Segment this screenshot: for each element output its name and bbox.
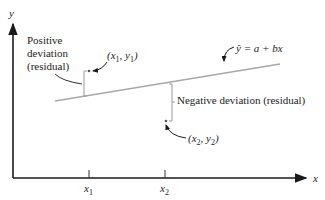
positive-residual-bracket — [84, 71, 87, 96]
positive-deviation-label-2: deviation — [27, 47, 68, 59]
positive-deviation-label-1: Positive — [27, 34, 63, 46]
positive-deviation-leader — [55, 74, 82, 84]
negative-residual-bracket — [169, 84, 172, 121]
point-2 — [165, 84, 175, 122]
point-1-label: (x1, y1) — [107, 49, 138, 64]
point-2-label: (x2, y2) — [188, 132, 219, 147]
y-axis: y — [8, 7, 14, 178]
regression-equation: ŷ = a + bx — [235, 42, 283, 54]
x2-tick: x2 — [159, 170, 169, 197]
positive-deviation-label-3: (residual) — [27, 60, 69, 73]
negative-deviation-label: Negative deviation (residual) — [177, 94, 306, 107]
x2-tick-label: x2 — [159, 182, 169, 197]
equation-pointer-arrow — [224, 47, 234, 61]
x-axis-label: x — [312, 172, 318, 184]
point-1-pointer-arrow — [93, 62, 107, 71]
point-2-pointer-arrow — [166, 125, 186, 138]
point-1 — [84, 70, 90, 96]
x1-tick: x1 — [83, 170, 93, 197]
x1-tick-label: x1 — [83, 182, 93, 197]
regression-diagram: y x x1 x2 ŷ = a + bx (x1, y1) Positive d… — [0, 0, 325, 200]
y-axis-label: y — [8, 7, 14, 19]
